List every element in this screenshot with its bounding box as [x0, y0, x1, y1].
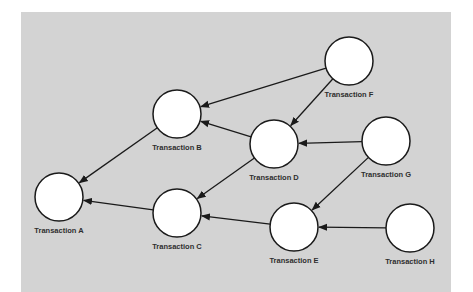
edge-e-to-c	[202, 216, 270, 224]
node-circle	[270, 203, 318, 251]
node-circle	[325, 37, 373, 85]
node-label: Transaction C	[152, 242, 202, 251]
node-transaction-a: Transaction A	[34, 173, 84, 235]
node-label: Transaction B	[152, 143, 202, 152]
edge-g-to-e	[312, 157, 368, 210]
node-label: Transaction E	[269, 256, 318, 265]
node-label: Transaction G	[361, 170, 411, 179]
node-transaction-f: Transaction F	[325, 37, 374, 99]
node-circle	[362, 117, 410, 165]
edge-h-to-e	[319, 227, 386, 228]
node-label: Transaction A	[34, 226, 84, 235]
node-transaction-d: Transaction D	[249, 120, 299, 182]
edge-d-to-c	[197, 158, 254, 199]
edge-c-to-a	[84, 200, 153, 209]
transaction-graph: Transaction ATransaction BTransaction CT…	[0, 0, 473, 292]
node-circle	[386, 204, 434, 252]
edge-g-to-d	[299, 142, 362, 144]
node-transaction-h: Transaction H	[385, 204, 435, 266]
node-transaction-g: Transaction G	[361, 117, 411, 179]
node-circle	[153, 189, 201, 237]
node-label: Transaction D	[249, 173, 299, 182]
node-label: Transaction H	[385, 257, 435, 266]
node-transaction-c: Transaction C	[152, 189, 202, 251]
edge-f-to-d	[291, 79, 333, 126]
edge-d-to-b	[201, 121, 251, 137]
node-transaction-e: Transaction E	[269, 203, 318, 265]
edge-b-to-a	[79, 128, 157, 183]
node-circle	[153, 90, 201, 138]
node-circle	[35, 173, 83, 221]
node-transaction-b: Transaction B	[152, 90, 202, 152]
node-label: Transaction F	[325, 90, 374, 99]
edge-f-to-b	[201, 68, 326, 107]
node-circle	[250, 120, 298, 168]
